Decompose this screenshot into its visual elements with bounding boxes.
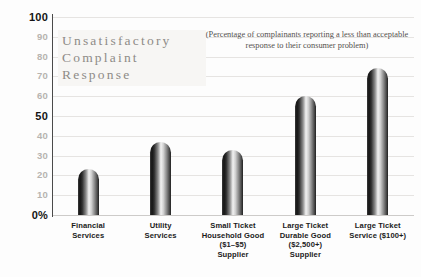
bar — [78, 169, 99, 215]
x-category-label: Small Ticket Household Good ($1–$5) Supp… — [197, 221, 269, 259]
y-tick-label: 40 — [2, 131, 48, 141]
bar — [367, 68, 388, 215]
x-category-label: Utility Services — [125, 221, 197, 259]
x-category-label: Financial Services — [52, 221, 124, 259]
bar — [150, 142, 171, 215]
y-tick-label: 20 — [2, 171, 48, 181]
bar — [295, 96, 316, 215]
bar — [222, 150, 243, 215]
chart-subtitle: (Percentage of complainants reporting a … — [196, 29, 418, 51]
y-tick-label: 90 — [2, 32, 48, 42]
y-tick-label: 60 — [2, 91, 48, 101]
y-tick-label: 50 — [2, 111, 48, 122]
chart-title: Unsatisfactory Complaint Response — [58, 30, 206, 86]
y-axis-tick-labels: 1009080706050403020100% — [0, 17, 48, 215]
gridline — [52, 215, 414, 216]
y-tick-label: 10 — [2, 190, 48, 200]
y-tick-label: 100 — [2, 12, 48, 23]
bar-chart: 1009080706050403020100% Unsatisfactory C… — [0, 0, 421, 277]
x-category-label: Large Ticket Durable Good ($2,500+) Supp… — [269, 221, 341, 259]
y-tick-label: 80 — [2, 52, 48, 62]
y-tick-label: 30 — [2, 151, 48, 161]
x-category-label: Large Ticket Service ($100+) — [342, 221, 414, 259]
y-tick-label: 0% — [2, 210, 48, 221]
y-tick-label: 70 — [2, 72, 48, 82]
x-axis-category-labels: Financial ServicesUtility ServicesSmall … — [52, 221, 414, 259]
